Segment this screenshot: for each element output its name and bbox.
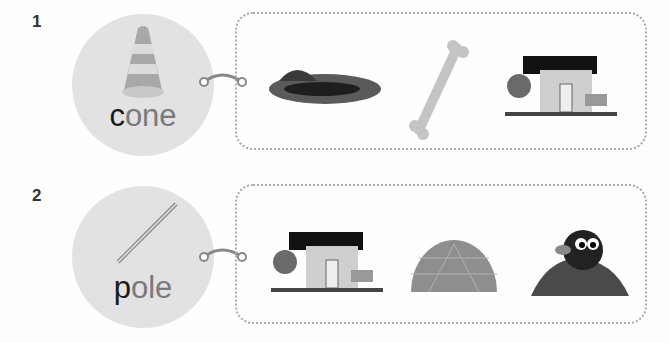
word-circle: pole — [72, 186, 214, 328]
pole-icon — [112, 200, 182, 266]
exercise-number: 2 — [32, 186, 41, 206]
hole-icon[interactable] — [267, 59, 387, 109]
word-label: pole — [72, 270, 214, 306]
word-circle: cone — [72, 14, 214, 156]
options-box — [235, 12, 647, 150]
dome-icon[interactable] — [409, 234, 499, 294]
house-icon[interactable] — [271, 224, 387, 294]
exercise-number: 1 — [32, 12, 41, 32]
house-icon[interactable] — [505, 48, 621, 118]
traffic-cone-icon — [118, 24, 168, 104]
bone-icon[interactable] — [405, 38, 475, 142]
mole-icon[interactable] — [527, 224, 631, 300]
options-box — [235, 184, 647, 324]
word-label: cone — [72, 98, 214, 134]
